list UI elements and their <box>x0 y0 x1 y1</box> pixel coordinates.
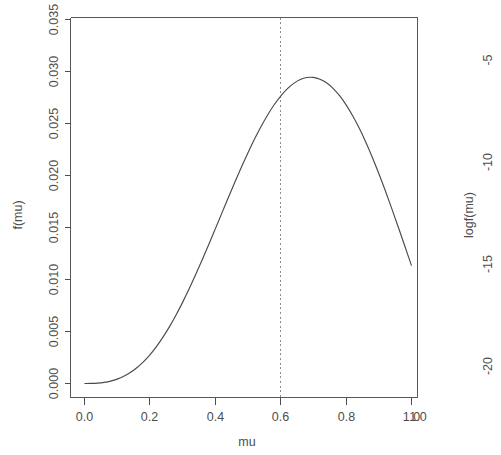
y-tick-label: 0.030 <box>47 56 61 87</box>
density-curve <box>85 77 412 383</box>
y-axis-tick-labels: 0.000 0.005 0.010 0.015 0.020 0.025 0.03… <box>47 4 61 399</box>
right-y-tick-label: -10 <box>481 153 495 171</box>
x-tick-label: 0.8 <box>338 410 355 424</box>
right-y-tick-label: -15 <box>481 255 495 273</box>
y-tick-label: 0.000 <box>47 368 61 399</box>
right-y-tick-label: -20 <box>481 357 495 375</box>
x-tick-label: 0.4 <box>207 410 224 424</box>
right-x-tick-label: 1.0 <box>409 410 426 424</box>
x-tick-label: 0.0 <box>76 410 93 424</box>
figure-canvas: 0.000 0.005 0.010 0.015 0.020 0.025 0.03… <box>0 0 501 455</box>
x-tick-label: 0.6 <box>272 410 289 424</box>
density-panel: 0.000 0.005 0.010 0.015 0.020 0.025 0.03… <box>11 4 420 449</box>
y-tick-label: 0.005 <box>47 316 61 347</box>
y-tick-label: 0.025 <box>47 108 61 139</box>
plot-box <box>71 18 418 398</box>
log-density-panel: -5 -10 -15 -20 logf(mu) 1.0 <box>409 54 495 424</box>
right-y-axis-title: logf(mu) <box>462 192 476 238</box>
x-axis-title: mu <box>238 435 255 449</box>
y-tick-label: 0.035 <box>47 4 61 35</box>
r-plot-svg: 0.000 0.005 0.010 0.015 0.020 0.025 0.03… <box>0 0 501 455</box>
x-axis-tick-labels: 0.0 0.2 0.4 0.6 0.8 1.0 <box>76 410 420 424</box>
y-axis-title: f(mu) <box>11 200 25 229</box>
y-tick-label: 0.020 <box>47 160 61 191</box>
y-tick-label: 0.010 <box>47 264 61 295</box>
right-y-tick-label: -5 <box>481 54 495 65</box>
y-tick-label: 0.015 <box>47 212 61 243</box>
x-axis-ticks <box>85 398 412 405</box>
right-y-axis-tick-labels: -5 -10 -15 -20 <box>481 54 495 375</box>
y-axis-ticks <box>65 20 71 384</box>
x-tick-label: 0.2 <box>141 410 158 424</box>
